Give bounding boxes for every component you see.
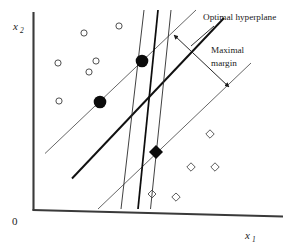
axes-group bbox=[33, 12, 284, 217]
open-circle-marker bbox=[86, 69, 92, 75]
optimal-hyperplane-leader-line bbox=[191, 26, 214, 46]
optimal-hyperplane-group bbox=[72, 18, 224, 179]
optimal-hyperplane-leader-group bbox=[191, 26, 214, 46]
open-circle-marker bbox=[93, 58, 99, 64]
filled-circle-support-vector bbox=[94, 96, 107, 109]
filled-circle-support-vector bbox=[136, 55, 149, 68]
open-circle-marker bbox=[81, 30, 87, 36]
optimal-hyperplane-label: Optimal hyperplane bbox=[203, 12, 276, 22]
open-diamond-markers-group bbox=[148, 130, 219, 201]
open-circle-marker bbox=[56, 98, 62, 104]
open-diamond-marker bbox=[211, 163, 219, 171]
x-axis-label-subscript: 1 bbox=[252, 235, 256, 244]
y-axis-label: x bbox=[12, 20, 18, 32]
filled-diamond-support-vectors-group bbox=[149, 145, 163, 159]
open-circle-marker bbox=[55, 60, 61, 66]
open-diamond-marker bbox=[206, 130, 214, 138]
steep-line-right bbox=[151, 10, 172, 209]
steep-lines-group bbox=[121, 10, 171, 209]
open-circle-markers-group bbox=[55, 23, 122, 104]
x-axis bbox=[33, 210, 284, 217]
maximal-margin-label-line1: Maximal bbox=[211, 45, 245, 55]
y-axis-label-subscript: 2 bbox=[20, 26, 24, 35]
x-axis-label: x bbox=[244, 229, 250, 241]
open-diamond-marker bbox=[172, 193, 180, 201]
open-circle-marker bbox=[116, 23, 122, 29]
filled-diamond-support-vector bbox=[149, 145, 163, 159]
margin-boundary-lower-line bbox=[98, 63, 251, 209]
margin-boundary-upper-line bbox=[45, 10, 196, 154]
annotations-group: Optimal hyperplane Maximal margin bbox=[203, 12, 276, 68]
svm-diagram: Optimal hyperplane Maximal margin x 2 x … bbox=[0, 0, 292, 246]
maximal-margin-label-line2: margin bbox=[211, 58, 237, 68]
open-diamond-marker bbox=[187, 163, 195, 171]
optimal-hyperplane-line bbox=[72, 18, 224, 179]
origin-label: 0 bbox=[12, 215, 18, 227]
